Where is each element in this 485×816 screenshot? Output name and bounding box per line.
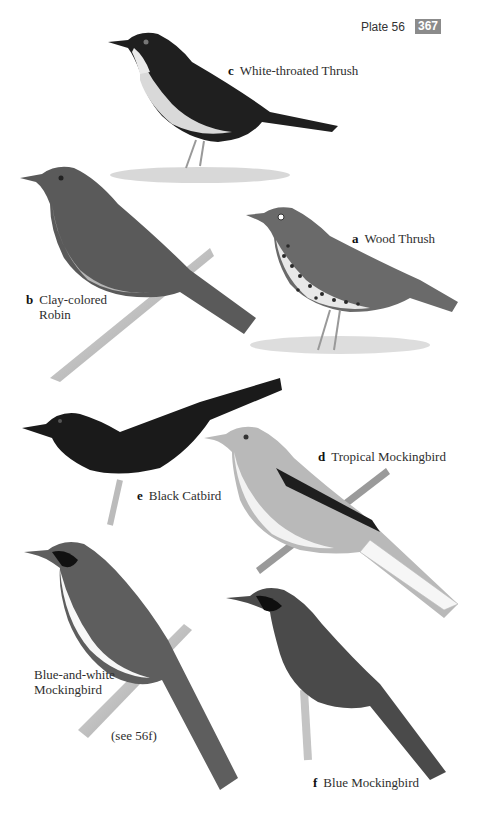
caption-white-throated-thrush: cWhite-throated Thrush [228,63,358,78]
caption-name: Black Catbird [149,488,222,503]
caption-letter: b [26,292,33,307]
caption-clay-colored-robin: bClay-colored Robin [26,292,116,322]
page-number-badge: 367 [415,19,441,34]
cross-reference-text: (see 56f) [111,728,157,743]
caption-tropical-mockingbird: dTropical Mockingbird [318,449,446,464]
caption-name-line2: Robin [26,307,116,322]
blue-mockingbird-illustration [226,588,446,780]
caption-name-line1: Clay-colored [39,292,107,307]
caption-name: Tropical Mockingbird [331,449,446,464]
blue-and-white-mockingbird-illustration [24,542,238,790]
plate-header: Plate 56 367 [361,19,441,34]
caption-name: White-throated Thrush [240,63,359,78]
plate-label: Plate 56 [361,20,405,34]
caption-letter: f [313,775,317,790]
caption-name: Wood Thrush [365,231,436,246]
caption-name-line1: Blue-and-white [34,667,115,682]
caption-letter: c [228,63,234,78]
caption-blue-mockingbird: fBlue Mockingbird [313,775,419,790]
caption-letter: a [352,231,359,246]
caption-blue-and-white-mockingbird: Blue-and-white Mockingbird [34,667,144,697]
caption-name: Blue Mockingbird [323,775,419,790]
caption-wood-thrush: aWood Thrush [352,231,435,246]
cross-reference: (see 56f) [111,728,157,743]
caption-letter: e [137,488,143,503]
wood-thrush-illustration [246,207,458,354]
caption-letter: d [318,449,325,464]
caption-name-line2: Mockingbird [34,682,102,697]
caption-black-catbird: eBlack Catbird [137,488,221,503]
white-throated-thrush-illustration [108,33,338,183]
